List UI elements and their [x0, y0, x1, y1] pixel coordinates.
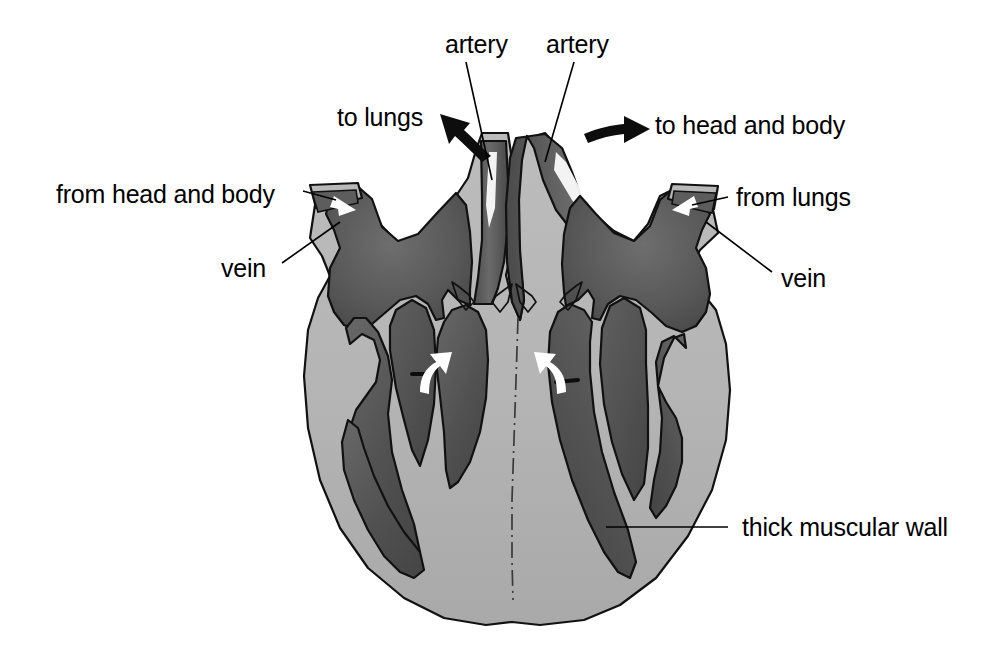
- vein-left-label: vein: [221, 254, 266, 282]
- heart-diagram-page: artery artery to lungs to head and body …: [0, 0, 1007, 656]
- from-head-and-body-label: from head and body: [56, 180, 275, 208]
- vein-right-leader: [706, 222, 772, 272]
- vein-right-label: vein: [781, 264, 826, 292]
- from-lungs-label: from lungs: [736, 183, 851, 211]
- to-head-and-body-black-arrow-icon: [584, 116, 650, 143]
- to-head-and-body-label: to head and body: [655, 111, 846, 139]
- artery-right-label: artery: [546, 30, 609, 58]
- heart-body-group: [304, 114, 730, 625]
- heart-cross-section-figure: artery artery to lungs to head and body …: [0, 0, 1007, 656]
- to-lungs-label: to lungs: [337, 103, 423, 131]
- thick-muscular-wall-label: thick muscular wall: [742, 513, 948, 541]
- artery-left-label: artery: [445, 30, 508, 58]
